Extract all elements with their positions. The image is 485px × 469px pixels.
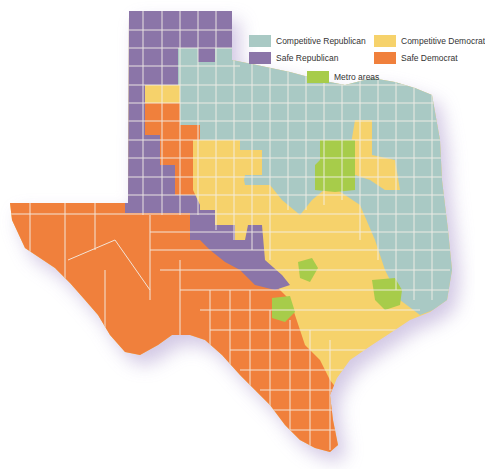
legend-item-competitive-republican: Competitive Republican bbox=[249, 35, 366, 47]
map-legend: Competitive Republican Competitive Democ… bbox=[246, 34, 475, 90]
legend-item-safe-democrat: Safe Democrat bbox=[374, 52, 458, 64]
swatch-competitive-democrat bbox=[374, 35, 396, 47]
swatch-competitive-republican bbox=[249, 35, 271, 47]
swatch-metro bbox=[307, 71, 329, 83]
legend-item-metro-areas: Metro areas bbox=[307, 71, 379, 83]
metro-dallas-fort-worth bbox=[315, 140, 355, 192]
legend-item-safe-republican: Safe Republican bbox=[249, 52, 338, 64]
legend-label: Metro areas bbox=[334, 72, 379, 82]
swatch-safe-democrat bbox=[374, 52, 396, 64]
swatch-safe-republican bbox=[249, 52, 271, 64]
legend-label: Safe Democrat bbox=[401, 53, 458, 63]
legend-label: Competitive Republican bbox=[276, 36, 366, 46]
legend-label: Safe Republican bbox=[276, 53, 338, 63]
legend-item-competitive-democrat: Competitive Democrat bbox=[374, 35, 485, 47]
legend-label: Competitive Democrat bbox=[401, 36, 485, 46]
